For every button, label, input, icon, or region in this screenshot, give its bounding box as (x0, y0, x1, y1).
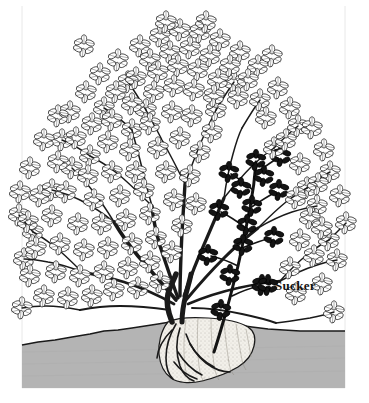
figure-root: Sucker (0, 0, 369, 403)
sucker-label: Sucker (275, 278, 316, 294)
shrub-illustration (0, 0, 369, 403)
